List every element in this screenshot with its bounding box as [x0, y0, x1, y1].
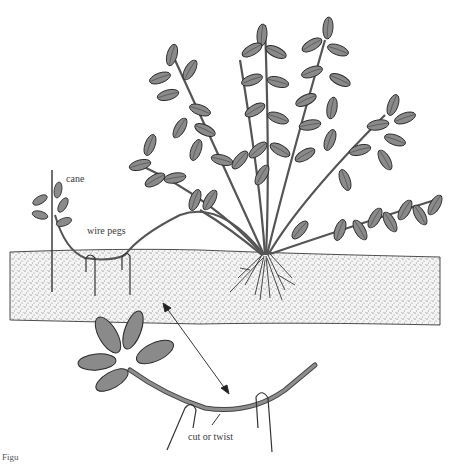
parent-plant-leaves: [128, 17, 445, 242]
detail-stem: [130, 365, 315, 425]
label-cane: cane: [66, 173, 84, 184]
illustration-canvas: cane wire pegs cut or twist Figu: [0, 0, 453, 464]
layering-illustration: [0, 0, 453, 464]
label-cut-or-twist: cut or twist: [188, 431, 233, 442]
soil-section: [10, 249, 440, 325]
figure-caption-fragment: Figu: [2, 452, 19, 462]
label-wire-pegs: wire pegs: [87, 225, 126, 236]
